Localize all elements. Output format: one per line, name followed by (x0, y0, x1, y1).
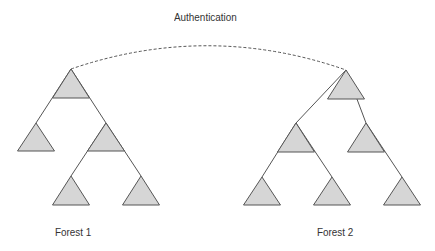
domain-triangle-f2-a1 (244, 177, 281, 205)
domain-triangle-f1-b (88, 123, 125, 151)
authentication-trust-link (71, 46, 346, 70)
domain-triangle-f2-b1 (384, 177, 421, 205)
forest-2-label: Forest 2 (317, 226, 353, 238)
domain-triangle-f2-a (278, 123, 315, 152)
forest-trust-diagram (0, 0, 435, 251)
authentication-label: Authentication (174, 11, 237, 23)
domain-triangle-f2-root (328, 70, 365, 99)
domain-triangles (18, 69, 421, 205)
domain-triangle-f2-b (348, 123, 385, 152)
domain-triangle-f1-b2 (123, 176, 160, 205)
domain-triangle-f1-b1 (53, 176, 90, 205)
domain-triangle-f2-a2 (314, 177, 351, 205)
forest-1-label: Forest 1 (55, 226, 91, 238)
domain-triangle-f1-root (53, 69, 90, 98)
domain-triangle-f1-a (18, 123, 55, 151)
